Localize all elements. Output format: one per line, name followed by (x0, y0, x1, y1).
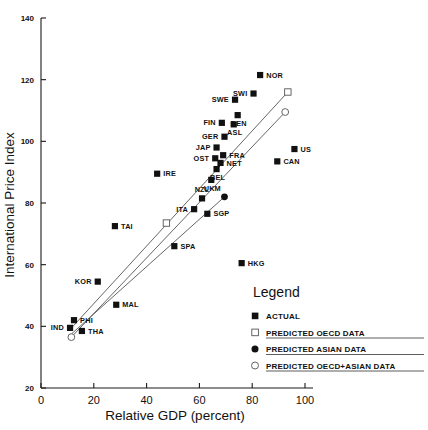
y-tick-label-100: 100 (21, 137, 35, 146)
point-label-jap: JAP (196, 143, 211, 152)
x-tick-label-20: 20 (88, 394, 100, 406)
point-label-bel: BEL (210, 173, 226, 182)
predicted-oecd-marker-0 (285, 89, 291, 95)
marker-den (235, 112, 241, 118)
x-tick-label-40: 40 (140, 394, 152, 406)
point-label-fin: FIN (203, 118, 215, 127)
marker-phi (71, 317, 77, 323)
x-tick-labels: 020406080100 (38, 383, 314, 406)
marker-swi (250, 90, 256, 96)
marker-net (217, 160, 223, 166)
legend-label-predicted-oecd-asian-data: PREDICTED OECD+ASIAN DATA (266, 362, 395, 371)
fit-line-2 (71, 197, 224, 334)
marker-hkg (239, 260, 245, 266)
predicted-asian-marker-2 (221, 193, 228, 200)
y-tick-label-20: 20 (25, 384, 34, 393)
marker-ita (191, 206, 197, 212)
legend-label-predicted-oecd-data: PREDICTED OECD DATA (266, 329, 365, 338)
point-label-spa: SPA (180, 242, 196, 251)
x-axis-title: Relative GDP (percent) (105, 408, 244, 423)
marker-tai (112, 223, 118, 229)
point-label-tai: TAI (121, 222, 133, 231)
y-tick-label-120: 120 (21, 76, 35, 85)
y-axis-title: International Price Index (2, 132, 17, 278)
point-label-ita: ITA (176, 205, 188, 214)
predicted-oecd-asian-marker-4 (68, 334, 75, 341)
point-label-nzl: NZL (195, 185, 210, 194)
point-label-asl: ASL (227, 128, 243, 137)
point-label-ost: OST (194, 154, 210, 163)
marker-ost (212, 155, 218, 161)
point-label-sgp: SGP (213, 209, 229, 218)
point-label-mal: MAL (122, 300, 139, 309)
chart-canvas: 020406080100 20406080100120140 NORSWISWE… (0, 0, 428, 430)
point-label-ind: IND (51, 323, 64, 332)
x-tick-label-0: 0 (38, 394, 44, 406)
point-label-den: DEN (231, 119, 247, 128)
marker-tha (79, 328, 85, 334)
marker-us (291, 146, 297, 152)
marker-spa (171, 243, 177, 249)
fit-lines-group (69, 92, 288, 337)
y-tick-label-40: 40 (25, 322, 34, 331)
predicted-oecd-asian-marker-3 (282, 109, 289, 116)
marker-jap (213, 144, 219, 150)
filled-circle-legend-icon (252, 346, 259, 353)
scatter-chart: 020406080100 20406080100120140 NORSWISWE… (0, 0, 428, 430)
marker-ire (154, 171, 160, 177)
y-tick-label-140: 140 (21, 14, 35, 23)
point-label-us: US (301, 145, 312, 154)
marker-ind (67, 325, 73, 331)
marker-fin (219, 120, 225, 126)
marker-kor (95, 279, 101, 285)
marker-fra (220, 152, 226, 158)
filled-square-legend-icon (252, 313, 259, 320)
marker-nor (257, 72, 263, 78)
point-label-nor: NOR (266, 71, 283, 80)
point-label-swe: SWE (212, 95, 229, 104)
x-tick-label-100: 100 (296, 394, 314, 406)
y-tick-label-80: 80 (25, 199, 34, 208)
point-label-net: NET (227, 159, 243, 168)
y-tick-labels: 20406080100120140 (21, 14, 46, 393)
legend-title: Legend (253, 284, 300, 300)
point-label-ger: GER (202, 132, 219, 141)
marker-bel (213, 166, 219, 172)
point-label-kor: KOR (75, 277, 92, 286)
marker-nzl (199, 195, 205, 201)
marker-sgp (204, 211, 210, 217)
point-label-phi: PHI (80, 316, 93, 325)
open-circle-legend-icon (252, 362, 259, 369)
y-tick-label-60: 60 (25, 261, 34, 270)
predicted-points-group (68, 89, 291, 341)
legend-label-predicted-asian-data: PREDICTED ASIAN DATA (266, 345, 366, 354)
point-label-tha: THA (88, 327, 104, 336)
x-tick-label-80: 80 (246, 394, 258, 406)
legend-label-actual: ACTUAL (266, 312, 300, 321)
point-label-swi: SWI (233, 89, 247, 98)
marker-mal (113, 302, 119, 308)
open-square-legend-icon (252, 329, 259, 336)
point-label-ire: IRE (163, 169, 176, 178)
fit-line-1 (71, 112, 285, 337)
x-tick-label-60: 60 (193, 394, 205, 406)
marker-can (274, 158, 280, 164)
chart-legend: Legend ACTUALPREDICTED OECD DATAPREDICTE… (252, 284, 425, 371)
point-label-can: CAN (283, 157, 299, 166)
predicted-oecd-marker-1 (163, 220, 169, 226)
point-label-hkg: HKG (248, 259, 265, 268)
